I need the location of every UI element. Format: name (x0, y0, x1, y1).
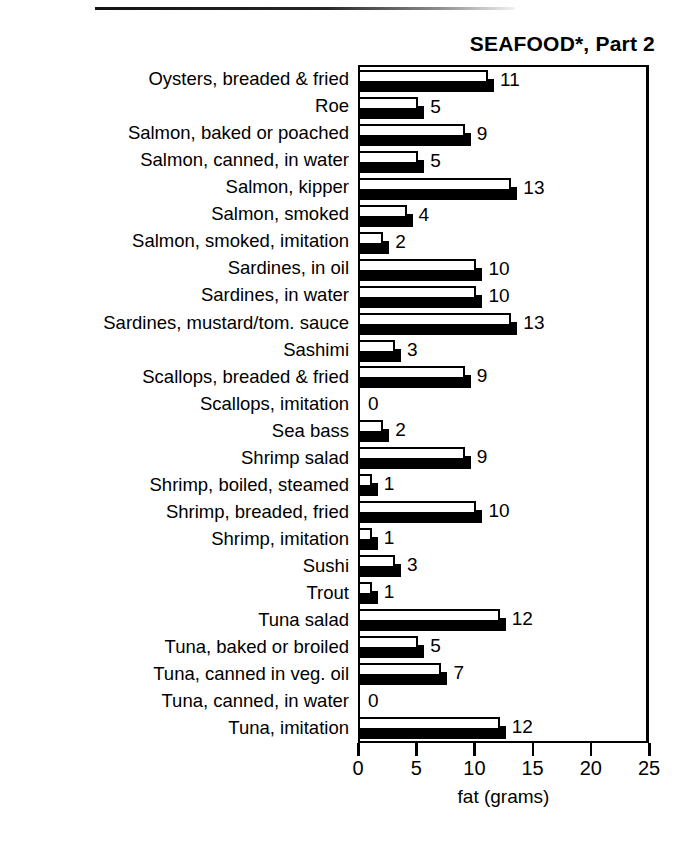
category-label: Sardines, in water (0, 282, 353, 309)
x-axis-tick (590, 743, 593, 756)
x-axis-tick-label: 20 (580, 757, 602, 780)
bar-face (360, 151, 418, 164)
bar-row: 9 (360, 121, 646, 148)
category-label: Tuna salad (0, 607, 353, 634)
seafood-fat-bar-chart: SEAFOOD*, Part 2 Oysters, breaded & frie… (0, 0, 697, 846)
bar-value-label: 13 (523, 175, 544, 201)
category-label: Sea bass (0, 418, 353, 445)
x-axis-title: fat (grams) (358, 786, 649, 808)
category-label: Sardines, mustard/tom. sauce (0, 309, 353, 336)
bar-value-label: 3 (407, 337, 418, 363)
bar-row: 12 (360, 714, 646, 741)
bar-row: 10 (360, 498, 646, 525)
plot-inner: 115951342101013390291101311257012 (360, 67, 646, 741)
x-axis-tick (532, 743, 535, 756)
category-label: Tuna, canned in veg. oil (0, 661, 353, 688)
bar-face (360, 232, 383, 245)
bar-value-label: 0 (368, 391, 379, 417)
category-label: Tuna, baked or broiled (0, 634, 353, 661)
bar-row: 1 (360, 471, 646, 498)
bar-face (360, 259, 476, 272)
bar-value-label: 10 (488, 283, 509, 309)
bar-value-label: 9 (477, 444, 488, 470)
category-label: Salmon, smoked (0, 201, 353, 228)
x-axis-tick-label: 15 (521, 757, 543, 780)
bar-row: 9 (360, 444, 646, 471)
x-axis-tick-label: 25 (638, 757, 660, 780)
bar-face (360, 717, 500, 730)
bar-face (360, 609, 500, 622)
bar-row: 0 (360, 390, 646, 417)
bar-face (360, 124, 465, 137)
bar-value-label: 2 (395, 417, 406, 443)
bar-row: 5 (360, 148, 646, 175)
bar-row: 2 (360, 229, 646, 256)
x-axis-tick (415, 743, 418, 756)
x-axis-tick-label: 5 (411, 757, 422, 780)
x-axis-tick-label: 0 (352, 757, 363, 780)
bar-face (360, 286, 476, 299)
bar-row: 9 (360, 363, 646, 390)
bar-row: 1 (360, 579, 646, 606)
bar-value-label: 3 (407, 552, 418, 578)
bar-face (360, 205, 407, 218)
bar-value-label: 13 (523, 310, 544, 336)
bar-value-label: 4 (419, 202, 430, 228)
bar-face (360, 420, 383, 433)
bar-row: 12 (360, 606, 646, 633)
bar-value-label: 5 (430, 633, 441, 659)
bar-face (360, 528, 372, 541)
bar-value-label: 2 (395, 229, 406, 255)
bar-row: 5 (360, 633, 646, 660)
bar-row: 13 (360, 175, 646, 202)
x-axis-tick (473, 743, 476, 756)
category-label: Sashimi (0, 336, 353, 363)
category-axis-labels: Oysters, breaded & friedRoeSalmon, baked… (0, 66, 353, 742)
bar-row: 11 (360, 67, 646, 94)
category-label: Shrimp, imitation (0, 526, 353, 553)
category-label: Scallops, breaded & fried (0, 364, 353, 391)
bar-row: 1 (360, 525, 646, 552)
bar-face (360, 447, 465, 460)
category-label: Salmon, canned, in water (0, 147, 353, 174)
bar-face (360, 366, 465, 379)
bar-row: 3 (360, 552, 646, 579)
bar-row: 13 (360, 310, 646, 337)
category-label: Tuna, canned, in water (0, 688, 353, 715)
bar-value-label: 9 (477, 121, 488, 147)
bar-face (360, 555, 395, 568)
category-label: Shrimp salad (0, 445, 353, 472)
category-label: Oysters, breaded & fried (0, 66, 353, 93)
bar-row: 0 (360, 687, 646, 714)
bar-row: 4 (360, 202, 646, 229)
bar-row: 2 (360, 417, 646, 444)
category-label: Shrimp, breaded, fried (0, 499, 353, 526)
category-label: Scallops, imitation (0, 391, 353, 418)
bar-value-label: 11 (500, 67, 520, 93)
page-divider-rule (95, 7, 515, 10)
bar-value-label: 5 (430, 94, 441, 120)
bar-row: 5 (360, 94, 646, 121)
bar-row: 10 (360, 283, 646, 310)
category-label: Trout (0, 580, 353, 607)
bar-value-label: 9 (477, 363, 488, 389)
bar-face (360, 70, 488, 83)
bar-face (360, 313, 511, 326)
category-label: Sushi (0, 553, 353, 580)
bar-face (360, 501, 476, 514)
bar-value-label: 5 (430, 148, 441, 174)
x-axis-tick (357, 743, 360, 756)
bar-row: 7 (360, 660, 646, 687)
bar-value-label: 12 (512, 714, 533, 740)
bar-row: 3 (360, 337, 646, 364)
bar-value-label: 12 (512, 606, 533, 632)
category-label: Roe (0, 93, 353, 120)
bar-face (360, 582, 372, 595)
category-label: Salmon, baked or poached (0, 120, 353, 147)
bar-face (360, 663, 441, 676)
bar-value-label: 1 (384, 525, 395, 551)
bar-row: 10 (360, 256, 646, 283)
bar-value-label: 1 (384, 579, 395, 605)
x-axis-tick (648, 743, 651, 756)
bar-value-label: 10 (488, 256, 509, 282)
